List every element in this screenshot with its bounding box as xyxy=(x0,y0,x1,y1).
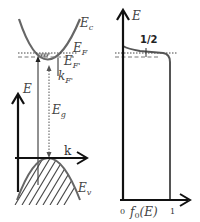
energy-axis-left-label: E xyxy=(22,82,32,96)
band-gap-label: Eg xyxy=(51,103,66,119)
f-axis-label: f0(E) xyxy=(129,205,158,220)
fermi-level-label: EF xyxy=(72,41,88,57)
energy-axis-right-label: E xyxy=(131,9,141,23)
tick-zero-label: 0 xyxy=(120,207,125,216)
fermi-level-prime-label: EF' xyxy=(63,54,81,70)
conduction-band-label: Ec xyxy=(79,16,94,32)
fermi-wavevector-label: kF' xyxy=(58,69,73,85)
band-structure-panel: Ec EF EF' kF' E Eg k Ev xyxy=(8,16,94,205)
half-marker-label: 1/2 xyxy=(140,34,158,45)
band-gap-arrowhead-top xyxy=(47,65,52,71)
valence-band-label: Ev xyxy=(77,181,92,197)
fermi-dirac-curve xyxy=(123,46,170,200)
k-axis-label: k xyxy=(64,144,72,158)
diagram-canvas: Ec EF EF' kF' E Eg k Ev E 1/2 0 f0(E) 1 xyxy=(0,0,200,222)
fermi-dirac-panel: E 1/2 0 f0(E) 1 xyxy=(115,9,190,220)
tick-one-label: 1 xyxy=(170,207,175,216)
